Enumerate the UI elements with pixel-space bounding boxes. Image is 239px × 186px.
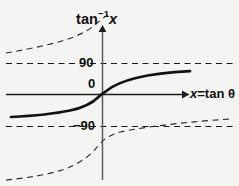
x-axis-label: x=tan θ xyxy=(190,87,235,100)
x-axis-label-expression: =tan θ xyxy=(197,86,235,101)
y-axis-label-prefix: tan xyxy=(76,11,98,27)
tick-label-zero: 0 xyxy=(88,77,95,90)
y-axis-label-variable: x xyxy=(109,11,117,27)
tick-label-positive-90: 90 xyxy=(79,56,93,69)
y-axis-label-exponent: −1 xyxy=(98,8,109,19)
arctangent-figure: tan−1x x=tan θ 90 −90 0 xyxy=(0,0,239,186)
dashed-branch-lower xyxy=(6,119,231,180)
tick-label-negative-90: −90 xyxy=(73,119,95,132)
y-axis-label: tan−1x xyxy=(76,10,117,26)
x-axis-arrowhead xyxy=(182,91,190,99)
